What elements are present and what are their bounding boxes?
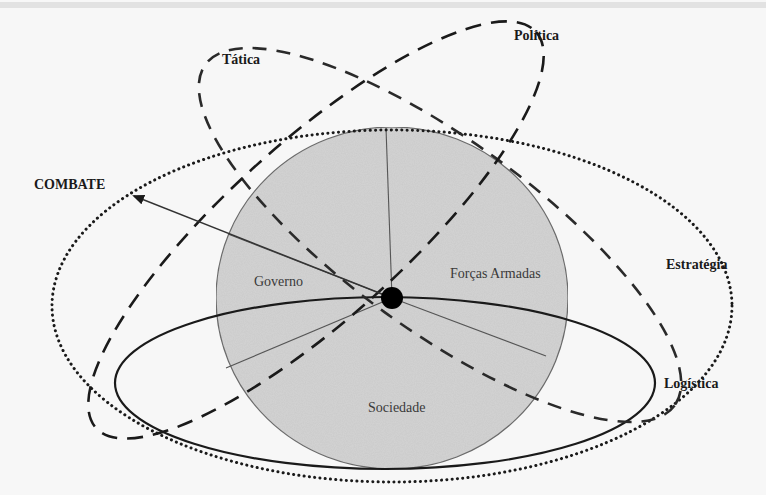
background-text-bleed [0, 2, 766, 8]
center-dot [381, 287, 403, 309]
sector-governo: Governo [254, 274, 303, 289]
label-logistica: Logística [664, 376, 718, 391]
sector-sociedade: Sociedade [368, 400, 426, 415]
label-combate: COMBATE [34, 177, 105, 192]
label-tatica: Tática [222, 52, 260, 67]
diagram-canvas: Tática Política COMBATE Estratégia Logís… [0, 0, 766, 495]
label-estrategia: Estratégia [666, 257, 727, 272]
sector-forcas-armadas: Forças Armadas [450, 266, 541, 281]
label-politica: Política [514, 28, 559, 43]
